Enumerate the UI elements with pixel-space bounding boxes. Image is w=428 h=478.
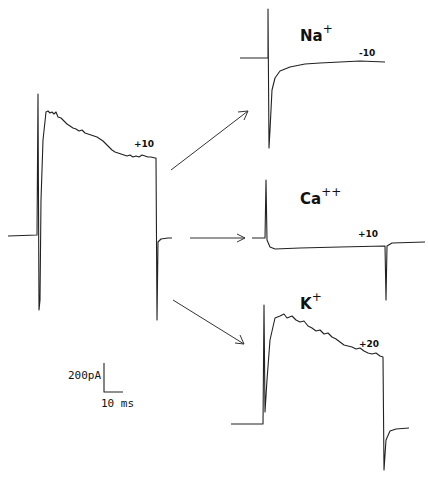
ca-ion-label: Ca++	[300, 187, 341, 208]
main-voltage-label: +10	[134, 139, 154, 149]
scale-current-label: 200pA	[68, 369, 101, 382]
k-ion-label: K+	[300, 292, 322, 313]
arrow-to-ca	[190, 234, 245, 242]
na-voltage-label: -10	[359, 48, 375, 58]
main-current-trace	[8, 94, 172, 320]
scale-bar	[104, 363, 123, 392]
arrow-to-na	[171, 111, 248, 170]
k-voltage-label: +20	[359, 339, 379, 349]
ca-voltage-label: +10	[358, 229, 378, 239]
na-ion-label: Na+	[300, 24, 333, 45]
arrow-to-k	[173, 300, 244, 344]
figure-canvas	[0, 0, 428, 478]
k-current-trace	[231, 305, 409, 470]
scale-time-label: 10 ms	[101, 397, 134, 410]
